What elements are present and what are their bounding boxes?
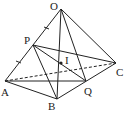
segment-OQ	[61, 9, 86, 81]
label-C: C	[116, 66, 123, 78]
edge-AB	[5, 81, 57, 99]
edge-OC	[61, 9, 116, 63]
label-B: B	[48, 100, 55, 112]
tetrahedron-diagram: O A B C P Q I	[0, 0, 132, 114]
point-I	[59, 61, 62, 64]
edge-AC	[5, 63, 116, 81]
edge-OB	[57, 9, 61, 99]
label-A: A	[1, 86, 9, 98]
label-O: O	[50, 0, 58, 12]
label-Q: Q	[84, 85, 92, 97]
label-I: I	[65, 54, 69, 66]
label-P: P	[24, 34, 30, 46]
